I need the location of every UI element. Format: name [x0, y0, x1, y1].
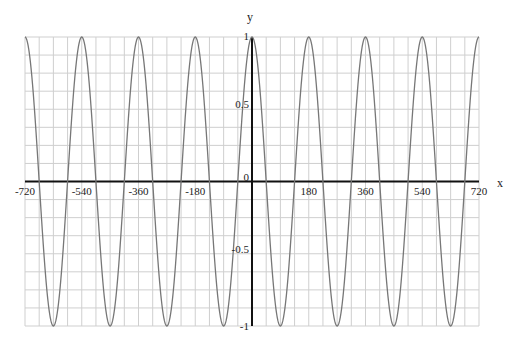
y-tick-label: 1 — [244, 30, 250, 42]
x-axis-label: x — [497, 176, 503, 190]
cosine-chart: -720-540-360-180180360540720 10.50-0.5-1… — [0, 0, 519, 342]
x-tick-label: 540 — [414, 185, 431, 197]
x-tick-label: -540 — [72, 185, 93, 197]
y-tick-label: -0.5 — [232, 243, 250, 255]
x-tick-label: -360 — [128, 185, 149, 197]
x-tick-label: 180 — [301, 185, 318, 197]
x-tick-label: 360 — [357, 185, 374, 197]
axes — [25, 37, 479, 326]
x-tick-label: -720 — [15, 185, 36, 197]
y-axis-label: y — [247, 10, 253, 24]
y-tick-label: 0.5 — [235, 98, 249, 110]
y-tick-label: -1 — [240, 320, 249, 332]
x-tick-label: 720 — [471, 185, 488, 197]
y-tick-label: 0 — [244, 171, 250, 183]
x-tick-label: -180 — [185, 185, 206, 197]
